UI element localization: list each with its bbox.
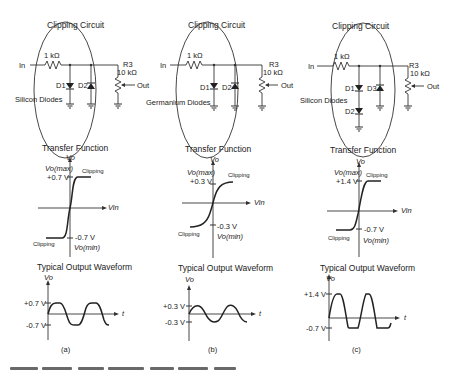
- clip-bottom-label: Clipping: [328, 235, 350, 241]
- diode-d2-label: D2: [345, 107, 355, 116]
- input-label: In: [19, 61, 25, 70]
- transfer-y-axis: Vo: [356, 157, 365, 166]
- panel-c: Clipping Circuit In 1 kΩ R3 10 kΩ Out Si…: [300, 0, 452, 355]
- waveform-y-axis: Vo: [185, 275, 194, 284]
- vmin-value: -0.7 V: [364, 225, 384, 234]
- pot-value: 10 kΩ: [117, 68, 137, 77]
- pot-value: 10 kΩ: [263, 68, 283, 77]
- input-label: In: [160, 61, 166, 70]
- waveform-title: Typical Output Waveform: [178, 263, 273, 273]
- waveform-x-axis: t: [404, 313, 406, 322]
- waveform-pos-label: +0.3 V: [163, 302, 185, 311]
- clip-top-label: Clipping: [228, 172, 250, 178]
- figure-caption-cropped: [10, 362, 450, 370]
- transfer-x-axis: Vin: [254, 198, 265, 207]
- waveform-x-axis: t: [259, 309, 261, 318]
- vmax-value-label: Vo(max): [187, 168, 215, 177]
- waveform-pos-label: +1.4 V: [304, 290, 326, 299]
- clip-top-label: Clipping: [366, 172, 388, 178]
- waveform-neg-label: -0.3 V: [165, 318, 185, 327]
- resistor-label: 1 kΩ: [44, 51, 60, 60]
- panel-a: Clipping Circuit In 1 kΩ R3 10 kΩ Out Si…: [0, 0, 152, 355]
- panel-a-drawing: [0, 0, 152, 355]
- waveform-pos-label: +0.7 V: [24, 299, 46, 308]
- waveform-x-axis: t: [122, 309, 124, 318]
- diode-type-label: Silicon Diodes: [15, 95, 63, 104]
- transfer-y-axis: Vo: [66, 153, 75, 162]
- diode-d1-label: D1: [56, 81, 66, 90]
- vmax-value: +0.3 V: [190, 177, 212, 186]
- diode-d2-label: D2: [222, 83, 232, 92]
- resistor-label: 1 kΩ: [187, 51, 203, 60]
- waveform-y-axis: Vo: [44, 273, 53, 282]
- panel-label: (c): [352, 345, 361, 354]
- waveform-neg-label: -0.7 V: [306, 324, 326, 333]
- waveform-neg-label: -0.7 V: [26, 321, 46, 330]
- transfer-title: Transfer Function: [42, 143, 108, 153]
- vmin-value: -0.7 V: [75, 233, 95, 242]
- clip-bottom-label: Clipping: [33, 241, 55, 247]
- clip-bottom-label: Clipping: [178, 231, 200, 237]
- vmin-label: Vo(min): [74, 243, 100, 252]
- output-label: Out: [427, 82, 439, 91]
- transfer-title: Transfer Function: [185, 144, 251, 154]
- diode-d1-label: D1: [345, 84, 355, 93]
- transfer-y-axis: Vo: [210, 155, 219, 164]
- pot-value: 10 kΩ: [410, 69, 430, 78]
- waveform-title: Typical Output Waveform: [320, 263, 415, 273]
- diode-type-label: Silicon Diodes: [300, 96, 348, 105]
- vmax-label: Vo(max): [334, 168, 362, 177]
- transfer-title: Transfer Function: [330, 145, 396, 155]
- panel-label: (a): [61, 345, 70, 354]
- diode-type-label: Germanium Diodes: [146, 98, 211, 107]
- resistor-label: 1 kΩ: [334, 52, 350, 61]
- transfer-x-axis: Vin: [401, 206, 412, 215]
- waveform-title: Typical Output Waveform: [37, 262, 132, 272]
- panel-b: Clipping Circuit In 1 kΩ R3 10 kΩ Out Ge…: [150, 0, 302, 355]
- diode-d2-label: D2: [78, 81, 88, 90]
- circuit-title: Clipping Circuit: [47, 20, 104, 30]
- transfer-x-axis: Vin: [108, 203, 119, 212]
- waveform-y-axis: Vo: [326, 274, 335, 283]
- diode-d3-label: D3: [367, 84, 377, 93]
- vmax-label: Vo(max): [45, 164, 73, 173]
- vmin-value: -0.3 V: [217, 222, 237, 231]
- vmin-label: Vo(min): [217, 232, 243, 241]
- output-label: Out: [137, 81, 149, 90]
- output-label: Out: [281, 81, 293, 90]
- clip-top-label: Clipping: [82, 168, 104, 174]
- circuit-title: Clipping Circuit: [188, 20, 245, 30]
- vmin-label: Vo(min): [363, 236, 389, 245]
- circuit-title: Clipping Circuit: [332, 21, 389, 31]
- panel-label: (b): [208, 345, 217, 354]
- vmax-value: +1.4 V: [336, 177, 358, 186]
- diode-d1-label: D1: [200, 83, 210, 92]
- vmax-value: +0.7 V: [47, 173, 69, 182]
- input-label: In: [308, 62, 314, 71]
